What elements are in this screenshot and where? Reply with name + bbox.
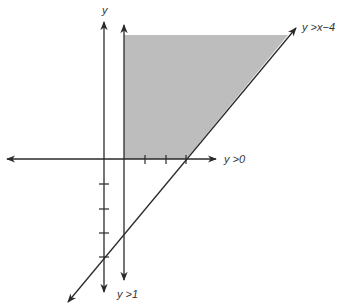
vertical-inequality-label: y >1	[116, 288, 138, 300]
diagonal-inequality-label: y >x−4	[301, 21, 335, 33]
horizontal-inequality-label: y >0	[223, 153, 246, 165]
shaded-region	[124, 35, 288, 159]
y-axis-label: y	[101, 4, 109, 16]
inequality-graph: y y >x−4 y >0 y >1	[0, 0, 338, 305]
